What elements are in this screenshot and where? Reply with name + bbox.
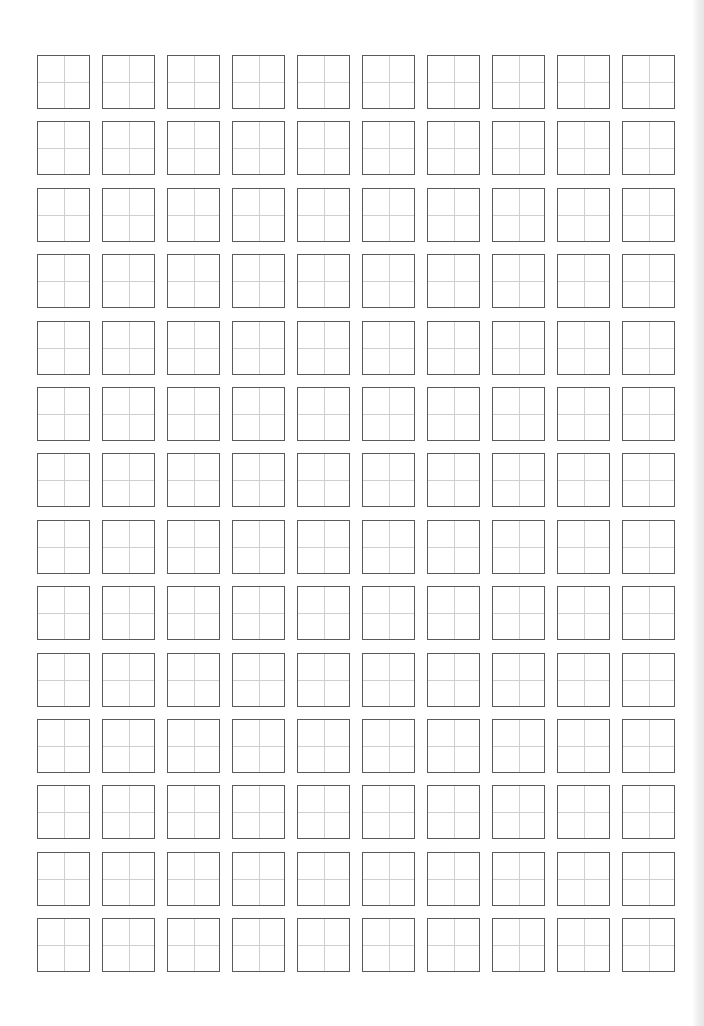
practice-cell — [232, 121, 285, 175]
horizontal-guide-line — [493, 812, 544, 813]
practice-cell — [232, 852, 285, 906]
horizontal-guide-line — [298, 281, 349, 282]
horizontal-guide-line — [623, 480, 674, 481]
practice-cell — [557, 586, 610, 640]
practice-cell — [37, 453, 90, 507]
practice-cell — [622, 586, 675, 640]
horizontal-guide-line — [363, 680, 414, 681]
horizontal-guide-line — [558, 348, 609, 349]
practice-cell — [622, 387, 675, 441]
practice-cell — [102, 520, 155, 574]
practice-cell — [167, 387, 220, 441]
horizontal-guide-line — [38, 414, 89, 415]
horizontal-guide-line — [428, 480, 479, 481]
practice-cell — [232, 254, 285, 308]
practice-cell — [167, 121, 220, 175]
practice-cell — [557, 520, 610, 574]
practice-cell — [557, 453, 610, 507]
horizontal-guide-line — [428, 281, 479, 282]
practice-cell — [557, 321, 610, 375]
practice-cell — [297, 121, 350, 175]
horizontal-guide-line — [168, 680, 219, 681]
practice-cell — [622, 719, 675, 773]
practice-cell — [427, 321, 480, 375]
practice-cell — [297, 653, 350, 707]
horizontal-guide-line — [493, 215, 544, 216]
practice-cell — [557, 254, 610, 308]
horizontal-guide-line — [103, 348, 154, 349]
horizontal-guide-line — [558, 281, 609, 282]
horizontal-guide-line — [233, 348, 284, 349]
practice-cell — [167, 55, 220, 109]
practice-cell — [362, 453, 415, 507]
horizontal-guide-line — [233, 215, 284, 216]
horizontal-guide-line — [493, 480, 544, 481]
practice-cell — [362, 653, 415, 707]
horizontal-guide-line — [38, 148, 89, 149]
practice-cell — [232, 321, 285, 375]
practice-cell — [427, 785, 480, 839]
practice-cell — [362, 188, 415, 242]
practice-cell — [167, 785, 220, 839]
practice-cell — [37, 653, 90, 707]
horizontal-guide-line — [363, 148, 414, 149]
horizontal-guide-line — [623, 746, 674, 747]
practice-cell — [427, 520, 480, 574]
practice-cell — [492, 453, 545, 507]
practice-cell — [362, 918, 415, 972]
horizontal-guide-line — [558, 215, 609, 216]
practice-cell — [622, 918, 675, 972]
practice-cell — [232, 785, 285, 839]
horizontal-guide-line — [428, 547, 479, 548]
horizontal-guide-line — [623, 680, 674, 681]
practice-cell — [427, 453, 480, 507]
horizontal-guide-line — [103, 480, 154, 481]
horizontal-guide-line — [38, 680, 89, 681]
horizontal-guide-line — [38, 746, 89, 747]
horizontal-guide-line — [103, 746, 154, 747]
horizontal-guide-line — [493, 82, 544, 83]
practice-cell — [167, 918, 220, 972]
horizontal-guide-line — [623, 547, 674, 548]
practice-cell — [492, 586, 545, 640]
practice-cell — [297, 520, 350, 574]
horizontal-guide-line — [38, 281, 89, 282]
practice-grid — [37, 55, 675, 972]
horizontal-guide-line — [363, 945, 414, 946]
practice-cell — [102, 852, 155, 906]
practice-cell — [492, 321, 545, 375]
practice-cell — [297, 188, 350, 242]
horizontal-guide-line — [103, 414, 154, 415]
horizontal-guide-line — [38, 613, 89, 614]
practice-cell — [37, 55, 90, 109]
practice-cell — [622, 55, 675, 109]
practice-cell — [232, 387, 285, 441]
horizontal-guide-line — [103, 547, 154, 548]
horizontal-guide-line — [493, 281, 544, 282]
practice-cell — [427, 586, 480, 640]
practice-cell — [557, 55, 610, 109]
practice-cell — [167, 321, 220, 375]
horizontal-guide-line — [558, 613, 609, 614]
horizontal-guide-line — [493, 148, 544, 149]
horizontal-guide-line — [363, 879, 414, 880]
horizontal-guide-line — [38, 480, 89, 481]
practice-cell — [492, 121, 545, 175]
practice-cell — [102, 121, 155, 175]
practice-cell — [622, 453, 675, 507]
practice-cell — [37, 719, 90, 773]
practice-cell — [297, 55, 350, 109]
horizontal-guide-line — [38, 879, 89, 880]
practice-cell — [427, 188, 480, 242]
practice-cell — [622, 121, 675, 175]
practice-cell — [427, 254, 480, 308]
horizontal-guide-line — [623, 148, 674, 149]
practice-cell — [362, 719, 415, 773]
practice-cell — [622, 852, 675, 906]
horizontal-guide-line — [493, 945, 544, 946]
horizontal-guide-line — [493, 879, 544, 880]
horizontal-guide-line — [298, 613, 349, 614]
horizontal-guide-line — [623, 215, 674, 216]
horizontal-guide-line — [558, 812, 609, 813]
horizontal-guide-line — [298, 746, 349, 747]
